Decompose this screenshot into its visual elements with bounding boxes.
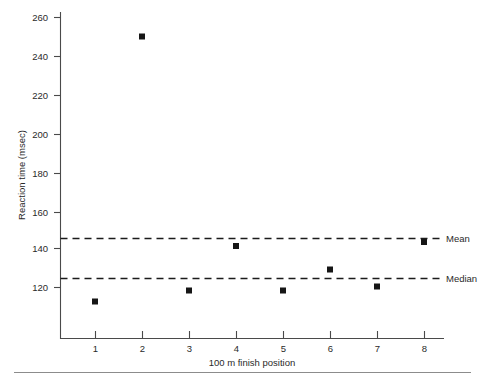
y-tick-label-160: 160 [32, 207, 48, 218]
data-point [280, 288, 286, 294]
x-tick-label-7: 7 [375, 343, 380, 354]
data-point [327, 267, 333, 273]
x-tick-label-2: 2 [140, 343, 145, 354]
x-tick-label-5: 5 [281, 343, 286, 354]
x-tick-label-8: 8 [422, 343, 427, 354]
y-tick-label-240: 240 [32, 51, 48, 62]
data-point [92, 299, 98, 305]
scatter-plot-figure: 260 240 220 200 180 160 140 120 Reaction… [0, 0, 485, 378]
median-reference-label: Median [446, 273, 477, 284]
y-tick-label-120: 120 [32, 282, 48, 293]
mean-reference-label: Mean [446, 233, 470, 244]
x-tick-label-4: 4 [234, 343, 239, 354]
x-tick-label-3: 3 [187, 343, 192, 354]
data-point [421, 239, 427, 245]
y-tick-label-180: 180 [32, 168, 48, 179]
x-axis-title: 100 m finish position [209, 357, 296, 368]
y-tick-label-260: 260 [32, 12, 48, 23]
x-tick-label-1: 1 [93, 343, 98, 354]
x-tick-label-6: 6 [328, 343, 333, 354]
chart-canvas: 260 240 220 200 180 160 140 120 Reaction… [0, 0, 485, 378]
data-point [186, 288, 192, 294]
y-tick-label-140: 140 [32, 243, 48, 254]
data-point [233, 243, 239, 249]
data-point [139, 34, 145, 40]
y-tick-label-200: 200 [32, 129, 48, 140]
data-point [374, 284, 380, 290]
y-tick-label-220: 220 [32, 90, 48, 101]
chart-background [0, 0, 485, 378]
y-axis-title: Reaction time (msec) [16, 130, 27, 220]
